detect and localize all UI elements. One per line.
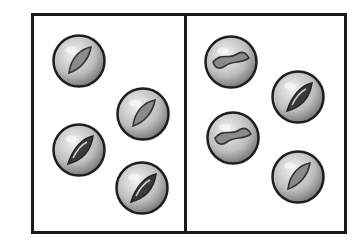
left-box-marble-3 [51,122,107,178]
right-box-marble-3 [205,110,261,166]
right-box-marble-2 [270,69,326,125]
left-box-marble-4 [114,160,170,216]
right-box-marble-4 [270,149,326,205]
right-box-marble-1 [203,34,259,90]
left-box-marble-1 [51,33,107,89]
panel-divider [184,13,187,231]
left-box-marble-2 [115,86,171,142]
